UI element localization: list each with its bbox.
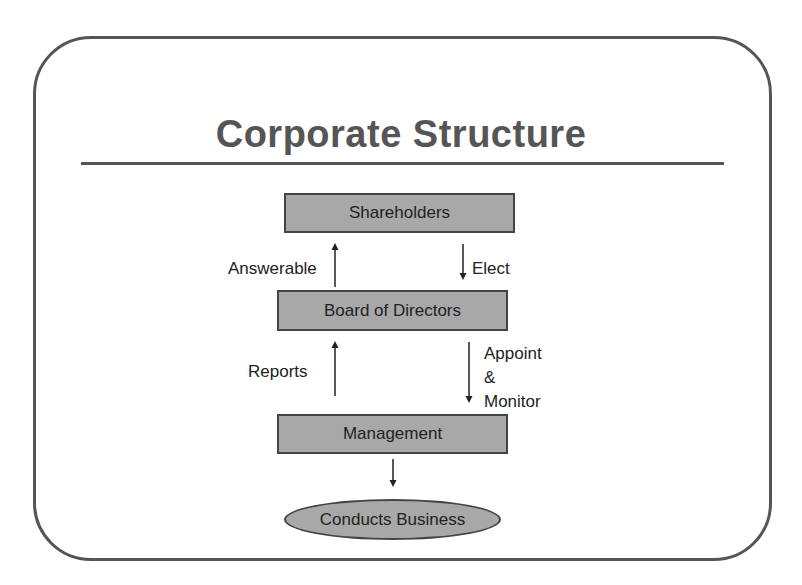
- node-management: Management: [277, 414, 508, 454]
- node-label: Conducts Business: [320, 510, 466, 530]
- node-shareholders: Shareholders: [284, 193, 515, 233]
- arrow-down-icon: [457, 244, 469, 280]
- edge-label-line: &: [484, 366, 542, 390]
- title-underline: [81, 162, 724, 165]
- arrow-up-icon: [329, 341, 341, 396]
- node-label: Board of Directors: [324, 301, 461, 321]
- node-label: Management: [343, 424, 442, 444]
- arrow-down-icon: [463, 342, 475, 403]
- arrow-up-icon: [329, 243, 341, 287]
- slide-title: Corporate Structure: [0, 112, 802, 156]
- edge-label-line: Appoint: [484, 342, 542, 366]
- edge-label-elect: Elect: [472, 257, 510, 281]
- edge-label-line: Monitor: [484, 390, 542, 414]
- edge-label-reports: Reports: [248, 360, 308, 384]
- node-conducts-business: Conducts Business: [284, 499, 501, 540]
- edge-label-answerable: Answerable: [228, 257, 317, 281]
- arrow-down-icon: [387, 459, 399, 487]
- node-board-of-directors: Board of Directors: [277, 290, 508, 331]
- node-label: Shareholders: [349, 203, 450, 223]
- edge-label-appoint-monitor: Appoint & Monitor: [484, 342, 542, 414]
